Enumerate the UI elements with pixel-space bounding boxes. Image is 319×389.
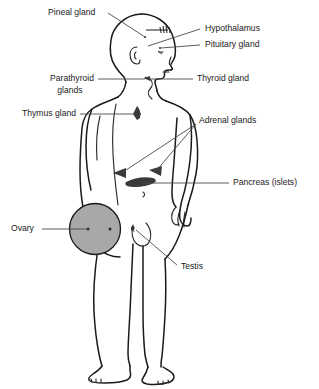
organ-markers <box>70 26 171 255</box>
leader-pituitary <box>161 45 200 48</box>
leg-right-outer-outline <box>161 259 166 367</box>
thymus-marker-lobe <box>137 106 140 120</box>
label-ovary: Ovary <box>11 223 35 233</box>
foot-left-outline <box>89 366 131 383</box>
label-pituitary-gland: Pituitary gland <box>205 39 260 49</box>
label-thymus-gland: Thymus gland <box>22 108 76 118</box>
torso-inner-contour <box>113 104 118 205</box>
arm-right-inner-outline <box>172 118 177 207</box>
leader-adrenal-upper <box>120 124 196 174</box>
label-testis: Testis <box>181 261 203 271</box>
leader-testis <box>136 230 177 265</box>
neck-front-outline <box>157 91 166 101</box>
label-hypothalamus: Hypothalamus <box>205 23 260 33</box>
pancreas-marker <box>125 177 155 187</box>
label-parathyroid-glands-line1: Parathyroid <box>50 73 94 83</box>
leg-left-inner-outline <box>128 244 133 366</box>
arm-left-outline <box>86 109 92 190</box>
leg-left-outer-outline <box>94 248 102 366</box>
ear-inner-detail <box>135 52 137 59</box>
navel-detail <box>143 192 145 197</box>
hypothalamus-marker <box>146 26 170 33</box>
leader-pineal <box>108 13 145 37</box>
label-thyroid-gland: Thyroid gland <box>197 73 249 83</box>
neck-back-outline <box>118 82 126 97</box>
label-texts: Pineal gland Hypothalamus Pituitary glan… <box>11 7 297 271</box>
label-pineal-gland: Pineal gland <box>48 7 96 17</box>
body-figure <box>80 14 198 384</box>
throat-contour <box>148 79 152 99</box>
label-pancreas-islets: Pancreas (islets) <box>233 177 297 187</box>
ovary-dot-right <box>109 228 112 231</box>
endocrine-system-diagram: Pineal gland Hypothalamus Pituitary glan… <box>0 0 319 389</box>
testis-marker <box>131 226 134 230</box>
adrenal-gland-right-marker <box>149 166 162 176</box>
parathyroid-marker <box>145 77 148 80</box>
pituitary-marker <box>159 47 161 49</box>
leg-right-inner-outline <box>143 246 148 367</box>
label-adrenal-glands: Adrenal glands <box>199 115 256 125</box>
label-parathyroid-glands-line2: glands <box>57 85 82 95</box>
arm-left-inner-line <box>97 116 100 160</box>
